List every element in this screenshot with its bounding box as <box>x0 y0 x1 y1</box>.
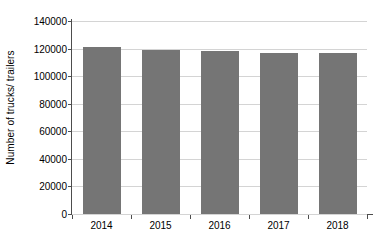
y-tick-mark <box>68 76 72 77</box>
bar-chart: Number of trucks/ trailers 0200004000060… <box>0 0 390 248</box>
x-tick-label: 2018 <box>326 220 348 231</box>
y-tick-label: 20000 <box>39 181 67 192</box>
y-tick-mark <box>68 21 72 22</box>
y-axis-ticks: 020000400006000080000100000120000140000 <box>0 0 67 248</box>
y-tick-mark <box>68 159 72 160</box>
y-tick-mark <box>68 131 72 132</box>
x-tick-mark <box>131 215 132 219</box>
x-tick-mark <box>190 215 191 219</box>
y-tick-label: 80000 <box>39 98 67 109</box>
gridline <box>72 21 367 22</box>
y-tick-mark <box>68 49 72 50</box>
bar[interactable] <box>260 53 298 214</box>
y-tick-label: 0 <box>61 209 67 220</box>
y-tick-label: 120000 <box>34 43 67 54</box>
y-tick-mark <box>68 186 72 187</box>
x-tick-mark <box>249 215 250 219</box>
y-tick-label: 140000 <box>34 16 67 27</box>
y-tick-label: 40000 <box>39 153 67 164</box>
y-tick-label: 100000 <box>34 71 67 82</box>
y-tick-mark <box>68 104 72 105</box>
x-tick-label: 2014 <box>90 220 112 231</box>
bar[interactable] <box>319 53 357 214</box>
x-tick-mark <box>367 215 368 219</box>
x-tick-label: 2016 <box>208 220 230 231</box>
x-tick-mark <box>72 215 73 219</box>
bar[interactable] <box>142 50 180 214</box>
x-tick-label: 2015 <box>149 220 171 231</box>
x-tick-mark <box>308 215 309 219</box>
gridline <box>72 214 367 215</box>
bar[interactable] <box>201 51 239 214</box>
y-tick-label: 60000 <box>39 126 67 137</box>
x-tick-label: 2017 <box>267 220 289 231</box>
bar[interactable] <box>83 47 121 214</box>
plot-area <box>72 21 367 214</box>
